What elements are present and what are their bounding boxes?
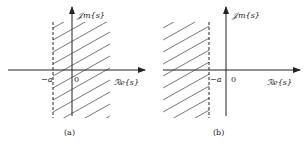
caption-b: (b) [213,128,224,137]
panel-a: 𝒥m{s} ℛe{s} −a 0 (a) [8,0,145,144]
panel-b: 𝒥m{s} ℛe{s} −a 0 (b) [163,0,300,144]
shaded-region-right-of-minus-a [53,0,110,144]
origin-label: 0 [231,75,236,84]
shaded-region-left-of-minus-a [163,0,220,144]
minus-a-label: −a [41,75,53,84]
minus-a-label: −a [210,75,222,84]
real-axis-label: ℛe{s} [267,78,292,87]
imaginary-axis-label: 𝒥m{s} [231,11,260,20]
real-axis-label: ℛe{s} [114,78,139,87]
roc-diagram: 𝒥m{s} ℛe{s} −a 0 (a) 𝒥m{s} ℛe{s} −a [0,0,306,144]
origin-label: 0 [74,75,79,84]
caption-a: (a) [64,128,75,137]
imaginary-axis-label: 𝒥m{s} [76,11,105,20]
